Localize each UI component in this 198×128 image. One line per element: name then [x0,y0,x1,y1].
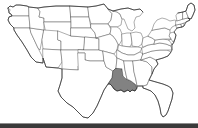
state-indiana[interactable] [122,33,132,47]
state-oregon[interactable] [8,16,30,28]
us-map-figure [0,0,198,128]
us-map-svg [0,0,198,128]
state-ohio[interactable] [131,32,143,47]
state-arizona[interactable] [43,49,62,68]
state-minnesota[interactable] [88,4,112,24]
bottom-band [0,124,198,128]
state-north-dakota[interactable] [70,6,89,17]
state-south-dakota[interactable] [71,17,91,28]
state-florida[interactable] [143,80,173,117]
state-new-york[interactable] [152,18,178,30]
state-kansas[interactable] [84,37,99,50]
